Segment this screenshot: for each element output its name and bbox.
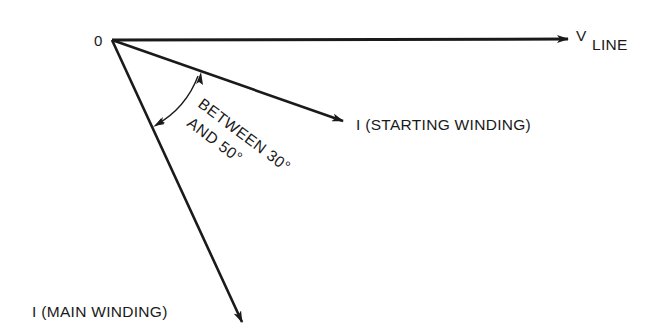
arc-arrow-bottom-icon — [153, 117, 165, 127]
main-winding-label: I (MAIN WINDING) — [32, 303, 168, 320]
origin-label: 0 — [94, 32, 102, 49]
svg-text:V: V — [576, 27, 587, 44]
phasor-diagram: 0 V LINE I (STARTING WINDING) I (MAIN WI… — [0, 0, 664, 335]
starting-winding-label: I (STARTING WINDING) — [356, 116, 531, 133]
v-line-phasor — [112, 39, 568, 40]
angle-annotation: BETWEEN 30° AND 50° — [184, 95, 294, 175]
main-winding-current-phasor — [112, 40, 242, 322]
starting-winding-current-phasor — [112, 40, 343, 121]
v-line-label: V LINE — [576, 27, 628, 53]
svg-text:LINE: LINE — [592, 36, 628, 53]
